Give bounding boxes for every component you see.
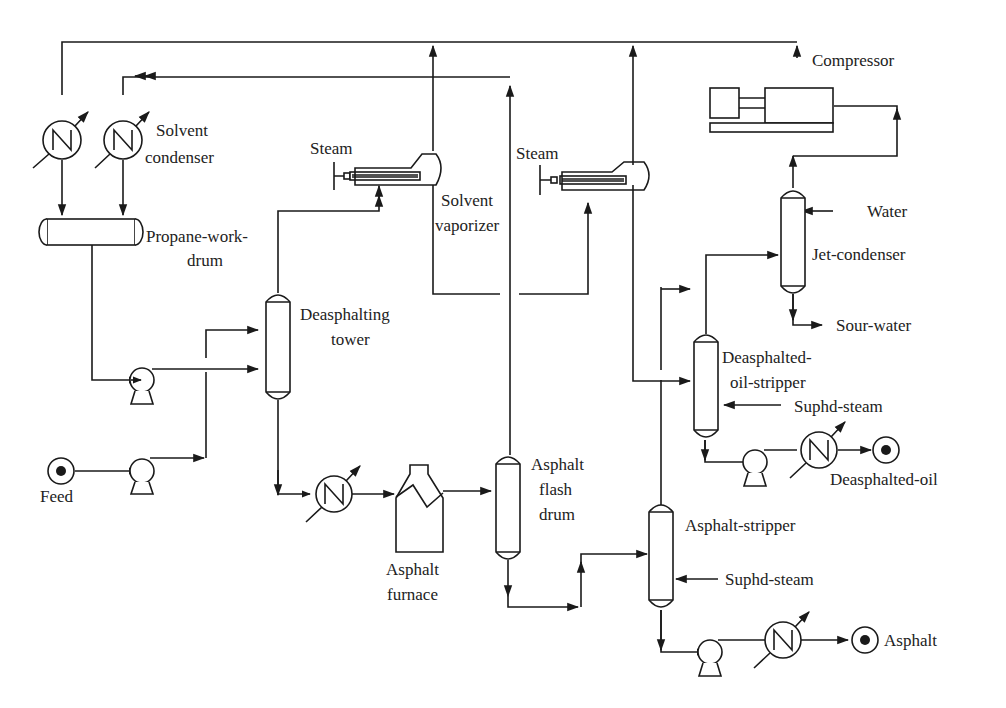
solvent-vaporizer-1 xyxy=(334,154,441,196)
feed-source xyxy=(48,458,74,484)
labels: Compressor Solvent condenser Steam Steam… xyxy=(40,51,938,650)
label-solvent-vaporizer-2: vaporizer xyxy=(435,216,500,235)
pump-4 xyxy=(698,640,722,676)
label-steam-2: Steam xyxy=(516,144,559,163)
sour-water-outlet xyxy=(793,294,822,325)
label-asphalt-furnace-1: Asphalt xyxy=(386,560,439,579)
label-asphalt-flash-drum-1: Asphalt xyxy=(531,455,584,474)
flash-bottoms-line xyxy=(508,596,578,607)
label-dao-stripper-2: oil-stripper xyxy=(730,373,806,392)
deasphalting-tower xyxy=(266,295,290,399)
pump-2 xyxy=(130,459,154,494)
label-sour-water: Sour-water xyxy=(836,316,912,335)
solvent-condenser-2 xyxy=(95,112,149,168)
compressor xyxy=(710,88,833,132)
label-deasphalting-tower-1: Deasphalting xyxy=(300,305,390,324)
label-solvent-condenser-1: Solvent xyxy=(156,121,208,140)
label-dao-stripper-1: Deasphalted- xyxy=(722,348,812,367)
compressor-suction xyxy=(834,106,897,110)
label-propane-work-drum-2: drum xyxy=(187,251,223,270)
tower-overhead-to-vaporizer xyxy=(278,196,379,293)
asphalt-bottoms xyxy=(661,610,705,652)
label-steam-1: Steam xyxy=(310,139,353,158)
label-water: Water xyxy=(867,202,907,221)
label-asphalt-stripper: Asphalt-stripper xyxy=(685,516,796,535)
solvent-vaporizer-2 xyxy=(540,162,649,195)
dao-overhead-to-jet xyxy=(706,255,778,334)
asphalt-stripper xyxy=(649,505,673,607)
label-deasphalting-tower-2: tower xyxy=(331,330,370,349)
pump-1 xyxy=(130,368,154,404)
label-feed: Feed xyxy=(40,487,74,506)
asphalt-furnace xyxy=(396,465,443,552)
second-header xyxy=(123,77,428,95)
process-flow-diagram: Compressor Solvent condenser Steam Steam… xyxy=(0,0,1006,708)
label-asphalt-flash-drum-3: drum xyxy=(539,505,575,524)
asphalt-cooler-1 xyxy=(306,466,360,522)
deasphalted-oil-stripper xyxy=(694,335,718,437)
solvent-condenser-1 xyxy=(33,112,88,168)
label-asphalt-furnace-2: furnace xyxy=(387,585,438,604)
drum-to-pump xyxy=(92,245,137,380)
label-solvent-condenser-2: condenser xyxy=(145,148,214,167)
label-compressor: Compressor xyxy=(812,51,895,70)
deasphalted-oil-product xyxy=(873,437,899,463)
tower-bottoms xyxy=(278,400,310,494)
label-propane-work-drum-1: Propane-work- xyxy=(146,227,248,246)
jet-condenser xyxy=(781,191,805,293)
label-deasphalted-oil: Deasphalted-oil xyxy=(830,470,938,489)
compressor-discharge-line xyxy=(62,42,797,95)
feed-to-tower-upper xyxy=(206,330,258,358)
asphalt-product xyxy=(852,627,878,653)
to-vaporizer2 xyxy=(519,203,588,294)
label-asphalt: Asphalt xyxy=(884,631,937,650)
label-solvent-vaporizer-1: Solvent xyxy=(441,191,493,210)
label-suphd-steam-2: Suphd-steam xyxy=(725,570,814,589)
to-asphalt-stripper xyxy=(581,554,647,565)
asphalt-flash-drum xyxy=(496,457,520,559)
label-suphd-steam-1: Suphd-steam xyxy=(794,397,883,416)
label-asphalt-flash-drum-2: flash xyxy=(539,480,573,499)
propane-work-drum xyxy=(39,219,143,245)
pump-3 xyxy=(743,450,767,486)
label-jet-condenser: Jet-condenser xyxy=(812,245,906,264)
